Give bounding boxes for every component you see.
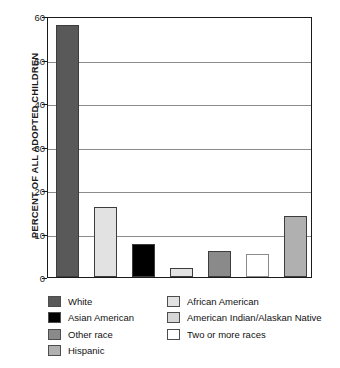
bar-two-or-more-races [246,254,269,277]
legend-item-hispanic: Hispanic [48,343,178,360]
legend-label: African American [187,296,259,307]
legend-swatch-icon [48,296,61,307]
legend-item-two-or-more-races: Two or more races [167,326,340,343]
legend-column-right: African AmericanAmerican Indian/Alaskan … [167,293,340,343]
legend-item-american-indian-alaskan-native: American Indian/Alaskan Native [167,310,340,327]
y-tick-label-10: 10 [5,229,45,240]
y-tick-label-40: 40 [5,99,45,110]
bar-asian-american [132,244,155,277]
legend-item-other-race: Other race [48,326,178,343]
y-tick-label-30: 30 [5,142,45,153]
legend-swatch-icon [48,345,61,356]
legend-label: White [68,296,92,307]
legend-label: Other race [68,329,113,340]
legend-item-african-american: African American [167,293,340,310]
legend-swatch-icon [167,312,180,323]
y-tick-label-0: 0 [5,273,45,284]
legend-item-white: White [48,293,178,310]
bar-american-indian-alaskan-native [170,268,193,277]
legend-item-asian-american: Asian American [48,310,178,327]
legend-swatch-icon [48,329,61,340]
bar-white [56,25,79,277]
legend-swatch-icon [167,329,180,340]
gridline-10 [48,236,311,237]
legend-swatch-icon [167,296,180,307]
legend-column-left: WhiteAsian AmericanOther raceHispanic [48,293,178,359]
bar-chart-figure: PERCENT OF ALL ADOPTED CHILDREN 01020304… [0,0,340,368]
y-tick-label-20: 20 [5,186,45,197]
legend-swatch-icon [48,312,61,323]
bar-other-race [208,251,231,277]
legend-label: Two or more races [187,329,266,340]
legend-label: American Indian/Alaskan Native [187,312,322,323]
gridline-20 [48,192,311,193]
gridline-30 [48,149,311,150]
legend-label: Hispanic [68,345,104,356]
y-tick-label-60: 60 [5,12,45,23]
bar-african-american [94,207,117,277]
gridline-40 [48,105,311,106]
y-tick-mark-0 [42,278,47,279]
y-tick-label-50: 50 [5,55,45,66]
plot-area [47,17,312,278]
gridline-50 [48,62,311,63]
bar-hispanic [284,216,307,277]
legend-label: Asian American [68,312,134,323]
